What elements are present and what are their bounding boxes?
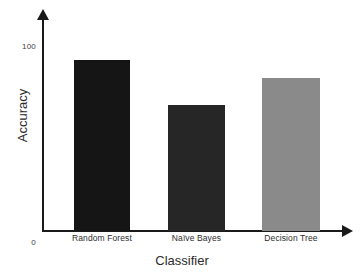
x-axis-title: Classifier (0, 253, 364, 268)
bar-decision-tree (262, 78, 320, 231)
y-tick-label-100: 100 (8, 42, 36, 51)
plot-area (44, 18, 344, 231)
y-tick-label-0: 0 (8, 238, 36, 247)
x-category-label-naive-bayes: Naïve Bayes (152, 233, 242, 243)
bar-chart: 100 0 Random Forest Naïve Bayes Decision… (0, 0, 364, 276)
x-category-label-decision-tree: Decision Tree (246, 233, 336, 243)
bar-naive-bayes (168, 105, 225, 231)
y-axis-title: Accuracy (15, 56, 30, 176)
x-category-label-random-forest: Random Forest (57, 233, 147, 243)
bar-random-forest (74, 60, 130, 231)
